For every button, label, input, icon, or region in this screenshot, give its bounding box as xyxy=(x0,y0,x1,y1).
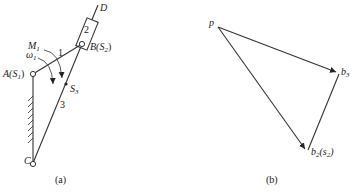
pivot-a xyxy=(30,71,35,76)
pivot-c xyxy=(30,161,35,166)
vector-b3-b2 xyxy=(308,74,339,150)
mechanism-diagram: D 2 B(S2) M1 ω1 1 A(S1) S3 3 C (a) p b3 … xyxy=(0,0,352,194)
label-b3: b3 xyxy=(341,66,350,79)
label-link-1: 1 xyxy=(58,47,63,58)
label-b2: b2(s2) xyxy=(311,146,334,159)
caption-a: (a) xyxy=(55,174,66,186)
label-link-3: 3 xyxy=(60,99,65,110)
ground-hatch xyxy=(28,96,33,143)
label-s3: S3 xyxy=(70,83,79,96)
label-c: C xyxy=(24,155,31,166)
figure-a: D 2 B(S2) M1 ω1 1 A(S1) S3 3 C (a) xyxy=(2,2,111,186)
figure-b: p b3 b2(s2) (b) xyxy=(208,17,350,186)
label-a: A(S1) xyxy=(2,68,24,81)
omega1-arrow-icon xyxy=(38,58,53,84)
label-p: p xyxy=(208,17,214,28)
centroid-s3 xyxy=(64,82,67,85)
vector-p-b2 xyxy=(218,27,305,149)
caption-b: (b) xyxy=(266,174,278,186)
pivot-b xyxy=(79,41,84,46)
vector-p-b3 xyxy=(218,27,336,72)
label-d: D xyxy=(99,2,108,13)
label-link-2: 2 xyxy=(84,24,89,35)
label-b: B(S2) xyxy=(90,41,111,54)
